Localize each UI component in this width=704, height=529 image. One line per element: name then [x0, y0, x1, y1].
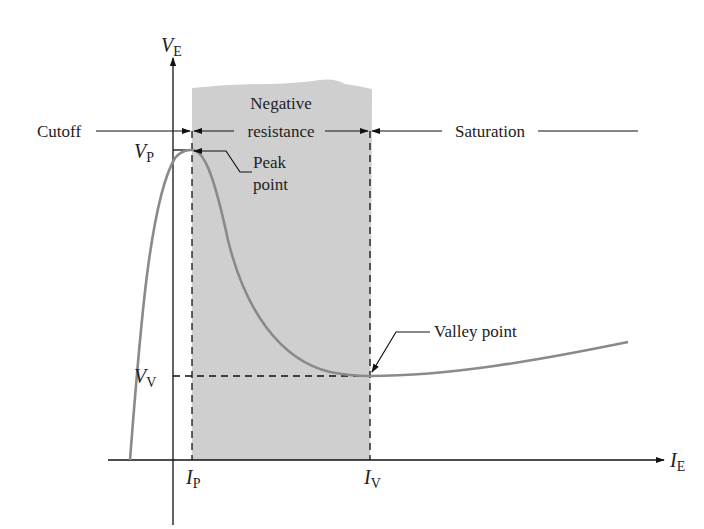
valley-point-label: Valley point: [434, 322, 517, 341]
valley-point-leader: [372, 332, 430, 372]
ujt-characteristic-diagram: VE IE VP VV IP IV Cutoff Negative resist…: [0, 0, 704, 529]
vv-label: VV: [134, 365, 156, 390]
cutoff-label: Cutoff: [37, 122, 81, 141]
y-axis-label: VE: [161, 34, 182, 59]
peak-point-label-1: Peak: [253, 153, 287, 172]
negative-resistance-label-2: resistance: [247, 122, 314, 141]
saturation-label: Saturation: [455, 122, 525, 141]
peak-point-label-2: point: [253, 175, 288, 194]
x-axis-label: IE: [669, 449, 685, 474]
vp-label: VP: [134, 140, 154, 165]
iv-label: IV: [363, 466, 381, 491]
negative-resistance-label-1: Negative: [250, 94, 311, 113]
ip-label: IP: [185, 466, 201, 491]
